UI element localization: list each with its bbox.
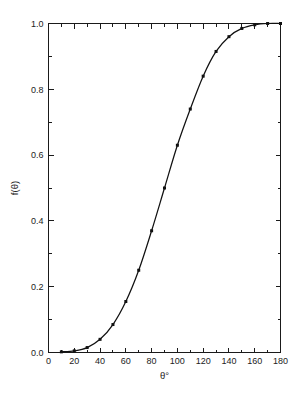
y-tick-label: 0.0 xyxy=(31,348,44,358)
x-tick-label: 0 xyxy=(46,356,51,366)
y-tick-label: 0.6 xyxy=(31,150,44,160)
x-tick-label: 80 xyxy=(147,356,157,366)
x-tick-label: 60 xyxy=(121,356,131,366)
y-tick-label: 0.8 xyxy=(31,85,44,95)
chart-plot: 020406080100120140160180 0.00.20.40.60.8… xyxy=(0,0,301,403)
x-tick-label: 20 xyxy=(69,356,79,366)
x-tick-label: 120 xyxy=(196,356,211,366)
x-axis-title: θ° xyxy=(160,370,169,381)
plot-background xyxy=(0,0,301,403)
x-tick-label: 160 xyxy=(247,356,262,366)
y-tick-label: 1.0 xyxy=(31,19,44,29)
y-tick-label: 0.4 xyxy=(31,216,44,226)
x-tick-label: 140 xyxy=(221,356,236,366)
y-tick-label: 0.2 xyxy=(31,282,44,292)
x-tick-label: 180 xyxy=(273,356,288,366)
figure-canvas: 020406080100120140160180 0.00.20.40.60.8… xyxy=(0,0,301,403)
y-axis-title: f(θ) xyxy=(9,181,20,195)
x-tick-label: 40 xyxy=(95,356,105,366)
x-tick-label: 100 xyxy=(170,356,185,366)
